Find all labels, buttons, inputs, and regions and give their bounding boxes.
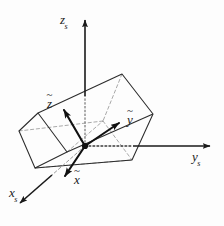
origin-marker bbox=[82, 143, 88, 149]
tilde-accent-z: ~ bbox=[47, 89, 53, 100]
axis-y-tilde bbox=[85, 123, 119, 146]
axis-label-zs-subscript: s bbox=[65, 22, 68, 31]
axis-label-ys: ys bbox=[192, 150, 201, 167]
axis-y-tilde-shaft bbox=[85, 123, 119, 146]
tilde-accent-x: ~ bbox=[74, 165, 80, 176]
figure-canvas: zs ys xs ~z ~y ~x bbox=[0, 0, 224, 226]
axis-label-zs: zs bbox=[60, 13, 68, 30]
coordinate-frame-diagram bbox=[0, 0, 224, 226]
axis-z-tilde bbox=[64, 110, 85, 146]
axis-label-z-tilde-glyph: ~z bbox=[47, 97, 52, 110]
axis-label-y-tilde: ~y bbox=[127, 113, 133, 126]
tilde-accent-y: ~ bbox=[127, 105, 133, 116]
axis-xs-shaft bbox=[20, 175, 52, 203]
axis-label-x-tilde: ~x bbox=[74, 173, 80, 186]
axis-label-xs-subscript: s bbox=[14, 195, 17, 204]
axis-label-ys-subscript: s bbox=[197, 159, 200, 168]
axis-z-tilde-shaft bbox=[64, 110, 85, 146]
axis-label-z-tilde: ~z bbox=[47, 97, 52, 110]
axis-label-y-tilde-glyph: ~y bbox=[127, 113, 133, 126]
axis-label-x-tilde-glyph: ~x bbox=[74, 173, 80, 186]
axis-label-xs: xs bbox=[9, 186, 18, 203]
